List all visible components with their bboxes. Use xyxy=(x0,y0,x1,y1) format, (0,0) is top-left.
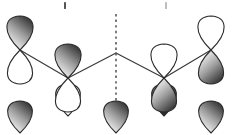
diagram-canvas xyxy=(0,0,232,135)
orbital-diagram xyxy=(0,0,232,135)
tick-mark-right xyxy=(165,2,167,9)
tick-mark-left xyxy=(64,2,66,9)
